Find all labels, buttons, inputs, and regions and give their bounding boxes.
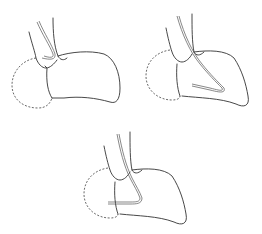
panel-bottom (84, 132, 186, 224)
panel-top-right (146, 14, 248, 106)
panel-top-left (12, 18, 120, 108)
heart-catheter-diagram (0, 0, 262, 234)
